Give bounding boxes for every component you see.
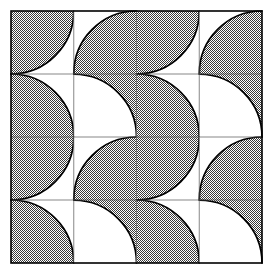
- tile-r2-c0: [11, 137, 74, 200]
- tiling-figure: [0, 0, 275, 274]
- tile-r3-c3: [199, 200, 262, 263]
- tile-r0-c0: [11, 11, 74, 74]
- tiling-pattern-svg: [0, 0, 275, 274]
- tile-r3-c0: [11, 200, 74, 263]
- tile-r3-c2: [137, 200, 200, 263]
- tile-r0-c2: [137, 11, 200, 74]
- tile-r1-c3: [199, 74, 262, 137]
- tile-r1-c1: [74, 74, 137, 137]
- tile-r0-c1: [74, 11, 137, 74]
- tile-r0-c3: [199, 11, 262, 74]
- tile-r2-c1: [74, 137, 137, 200]
- tile-r1-c2: [137, 74, 200, 137]
- tile-r1-c0: [11, 74, 74, 137]
- tile-r3-c1: [74, 200, 137, 263]
- tile-r2-c3: [199, 137, 262, 200]
- tile-r2-c2: [137, 137, 200, 200]
